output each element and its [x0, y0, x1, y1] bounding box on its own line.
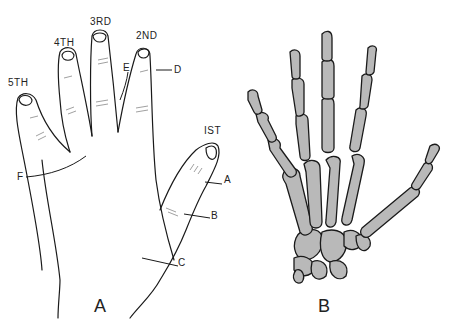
panel-label-b: B [318, 297, 330, 315]
point-label-c: C [178, 258, 186, 268]
point-label-e: E [123, 63, 130, 73]
hand-outline-drawing [0, 0, 452, 321]
finger-label-fifth: 5TH [8, 78, 28, 88]
finger-label-third: 3RD [90, 17, 112, 27]
point-label-d: D [174, 65, 182, 75]
finger-label-first: IST [204, 126, 221, 136]
point-label-b: B [211, 211, 218, 221]
point-label-f: F [17, 172, 24, 182]
hand-anatomy-figure: 5TH 4TH 3RD 2ND IST A B C D E F A B [0, 0, 452, 321]
finger-label-second: 2ND [136, 31, 158, 41]
point-label-a: A [224, 175, 231, 185]
panel-label-a: A [94, 297, 106, 315]
finger-label-fourth: 4TH [54, 38, 74, 48]
